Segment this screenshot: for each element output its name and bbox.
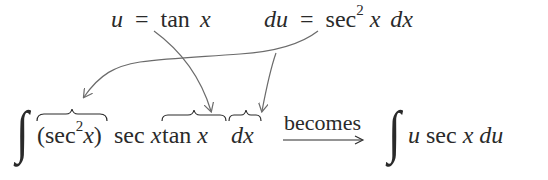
secx-term: sec x — [114, 123, 161, 147]
integral-sign: ∫ — [16, 103, 29, 161]
tan-fn: tan — [162, 122, 191, 148]
brace-tanx — [162, 110, 226, 121]
x-var: x — [83, 122, 94, 148]
du-var: du — [479, 122, 503, 148]
brace-sec2x — [37, 109, 107, 121]
result-expression: u sec x du — [408, 123, 503, 147]
sec2x-term: (sec2x) — [37, 123, 102, 147]
substitution-arrows — [0, 0, 548, 180]
x-var: x — [463, 122, 474, 148]
x-var: x — [197, 122, 208, 148]
sec-fn: sec — [45, 122, 76, 148]
paren-open: ( — [37, 122, 45, 148]
becomes-label: becomes — [284, 112, 361, 134]
result-integral-sign: ∫ — [388, 103, 401, 161]
arrow-du-to-dx — [262, 53, 276, 111]
brace-dx — [229, 110, 261, 121]
sec-fn: sec — [114, 122, 145, 148]
arrow-u-to-tanx — [154, 31, 211, 111]
u-var: u — [408, 122, 420, 148]
exponent: 2 — [76, 118, 84, 134]
x-var: x — [151, 122, 162, 148]
paren-close: ) — [94, 122, 102, 148]
sec-fn: sec — [426, 122, 457, 148]
dx-term: dx — [231, 123, 254, 147]
tanx-term: tan x — [162, 123, 208, 147]
